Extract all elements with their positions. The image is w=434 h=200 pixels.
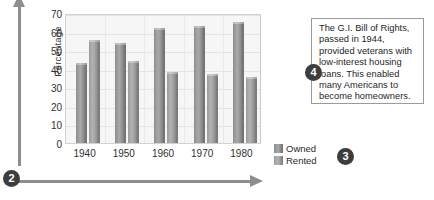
bar-highlight	[167, 72, 178, 74]
y-axis-tick-label: 50	[26, 46, 62, 57]
bar-rented-1950	[128, 61, 139, 143]
bar-owned-1980	[233, 22, 244, 143]
bar-owned-1970	[194, 26, 205, 143]
plot-wrapper	[65, 14, 261, 144]
bar-group	[223, 15, 261, 143]
bar-highlight	[89, 40, 100, 42]
bar-owned-1940	[76, 63, 87, 143]
callout-marker-legend: 3	[337, 148, 354, 165]
bar-highlight	[128, 61, 139, 63]
chart-legend: OwnedRented	[274, 143, 317, 167]
bar-group	[66, 15, 105, 143]
y-axis-tick-label: 30	[26, 83, 62, 94]
bar-highlight	[194, 26, 205, 28]
y-axis-tick-label: 70	[26, 9, 62, 20]
bar-rented-1940	[89, 40, 100, 143]
x-axis-tick-labels: 19401950196019701980	[65, 148, 261, 164]
bar-highlight	[154, 28, 165, 30]
x-axis-tick-label: 1980	[218, 148, 264, 159]
bar-highlight	[233, 22, 244, 24]
callout-marker-axes: 2	[3, 170, 20, 187]
bar-rented-1960	[167, 72, 178, 143]
bar-rented-1980	[246, 77, 257, 143]
legend-swatch-icon	[274, 156, 283, 165]
bar-highlight	[207, 74, 218, 76]
bar-highlight	[246, 77, 257, 79]
y-axis-tick-labels: 010203040506070	[26, 14, 62, 144]
bar-rented-1970	[207, 74, 218, 143]
callout-vertical-arrow-icon	[18, 6, 21, 166]
bar-group	[105, 15, 144, 143]
bar-group	[184, 15, 223, 143]
plot-area	[65, 14, 261, 144]
annotation-text-box: The G.I. Bill of Rights, passed in 1944,…	[311, 18, 424, 104]
bar-highlight	[76, 63, 87, 65]
y-axis-tick-label: 20	[26, 101, 62, 112]
bar-highlight	[115, 43, 126, 45]
bar-chart: Percentage 010203040506070 1940195019601…	[26, 8, 266, 173]
legend-label: Rented	[286, 155, 317, 166]
legend-item-rented: Rented	[274, 155, 317, 166]
y-axis-tick-label: 60	[26, 27, 62, 38]
callout-marker-annotation: 4	[305, 64, 322, 81]
y-axis-tick-label: 10	[26, 120, 62, 131]
y-axis-tick-label: 40	[26, 64, 62, 75]
legend-label: Owned	[286, 143, 316, 154]
y-axis-tick-label: 0	[26, 139, 62, 150]
bar-owned-1950	[115, 43, 126, 143]
legend-swatch-icon	[274, 144, 283, 153]
legend-item-owned: Owned	[274, 143, 317, 154]
bar-owned-1960	[154, 28, 165, 143]
callout-horizontal-arrow-icon	[18, 180, 250, 183]
bar-group	[144, 15, 183, 143]
